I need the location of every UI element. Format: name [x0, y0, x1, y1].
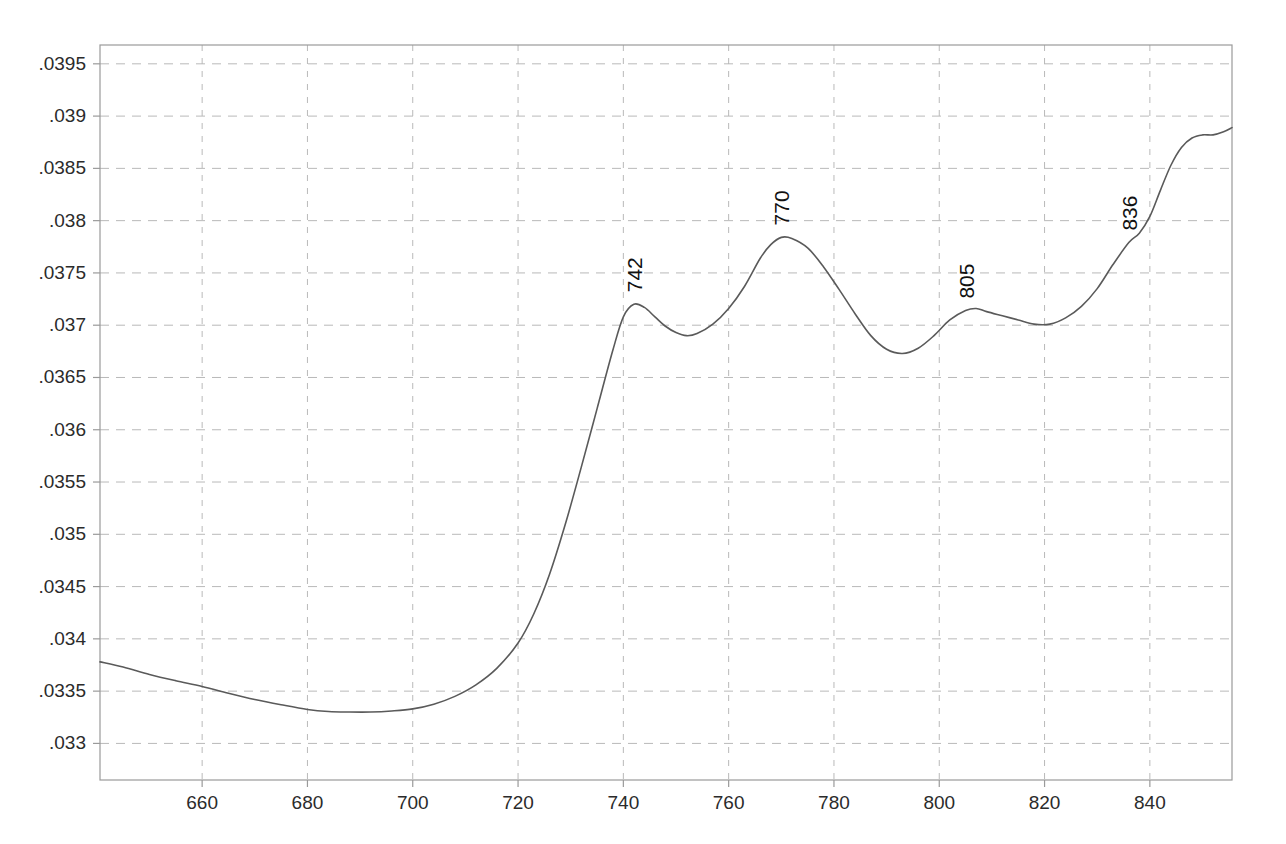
chart-background	[0, 0, 1286, 844]
y-axis-tick-label: .0345	[38, 576, 86, 597]
y-axis-tick-label: .036	[49, 419, 86, 440]
y-axis-tick-label: .0365	[38, 366, 86, 387]
x-axis-tick-label: 780	[818, 792, 850, 813]
x-axis-tick-label: 740	[608, 792, 640, 813]
y-axis-tick-label: .039	[49, 105, 86, 126]
spectrum-line-chart: .033.0335.034.0345.035.0355.036.0365.037…	[0, 0, 1286, 844]
peak-label-742: 742	[623, 257, 646, 292]
y-axis-tick-label: .0335	[38, 680, 86, 701]
y-axis-tick-label: .034	[49, 628, 86, 649]
y-axis-tick-label: .0395	[38, 53, 86, 74]
x-axis-tick-label: 760	[713, 792, 745, 813]
y-axis-tick-label: .035	[49, 523, 86, 544]
y-axis-tick-label: .0355	[38, 471, 86, 492]
y-axis-tick-label: .038	[49, 210, 86, 231]
peak-label-805: 805	[955, 264, 978, 299]
y-axis-tick-label: .033	[49, 732, 86, 753]
y-axis-tick-label: .0385	[38, 157, 86, 178]
x-axis-tick-label: 820	[1029, 792, 1061, 813]
x-axis-tick-label: 720	[502, 792, 534, 813]
peak-label-770: 770	[770, 190, 793, 225]
y-axis-tick-label: .0375	[38, 262, 86, 283]
chart-container: .033.0335.034.0345.035.0355.036.0365.037…	[0, 0, 1286, 844]
x-axis-tick-label: 680	[292, 792, 324, 813]
x-axis-tick-label: 660	[186, 792, 218, 813]
peak-label-836: 836	[1118, 196, 1141, 231]
x-axis-tick-label: 840	[1134, 792, 1166, 813]
x-axis-tick-label: 700	[397, 792, 429, 813]
x-axis-tick-label: 800	[923, 792, 955, 813]
y-axis-tick-label: .037	[49, 314, 86, 335]
